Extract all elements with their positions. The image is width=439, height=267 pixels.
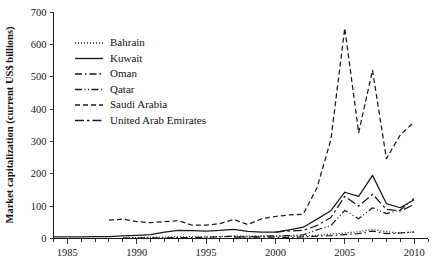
legend-label-bahrain: Bahrain [110, 36, 145, 48]
y-axis-ticks: 0100200300400500600700 [31, 7, 54, 245]
x-axis-ticks: 198519901995200020052010 [54, 239, 429, 258]
x-tick-label: 2005 [334, 247, 355, 258]
chart-figure: Market capitalization (current US$ billi… [0, 0, 439, 267]
y-tick-label: 400 [31, 104, 47, 115]
series-line-kuwait [54, 175, 415, 236]
y-tick-label: 600 [31, 39, 47, 50]
y-tick-label: 500 [31, 71, 47, 82]
legend-label-united-arab-emirates: United Arab Emirates [110, 114, 206, 126]
y-tick-label: 300 [31, 136, 47, 147]
x-tick-label: 1990 [126, 247, 147, 258]
series-group [54, 28, 415, 238]
legend-label-qatar: Qatar [110, 83, 135, 95]
x-tick-label: 1995 [196, 247, 217, 258]
market-capitalization-line-chart: Market capitalization (current US$ billi… [0, 0, 439, 267]
x-tick-label: 2000 [265, 247, 286, 258]
y-tick-label: 0 [41, 233, 46, 244]
legend-label-kuwait: Kuwait [110, 52, 142, 64]
y-tick-label: 700 [31, 7, 47, 18]
x-tick-label: 2010 [404, 247, 425, 258]
y-axis-title: Market capitalization (current US$ billi… [4, 26, 16, 223]
y-tick-label: 100 [31, 201, 47, 212]
y-tick-label: 200 [31, 168, 47, 179]
legend-label-saudi-arabia: Saudi Arabia [110, 98, 167, 110]
series-line-saudi-arabia [109, 28, 414, 225]
series-line-united-arab-emirates [275, 194, 414, 232]
chart-legend: BahrainKuwaitOmanQatarSaudi ArabiaUnited… [75, 36, 206, 126]
x-tick-label: 1985 [57, 247, 78, 258]
legend-label-oman: Oman [110, 67, 137, 79]
